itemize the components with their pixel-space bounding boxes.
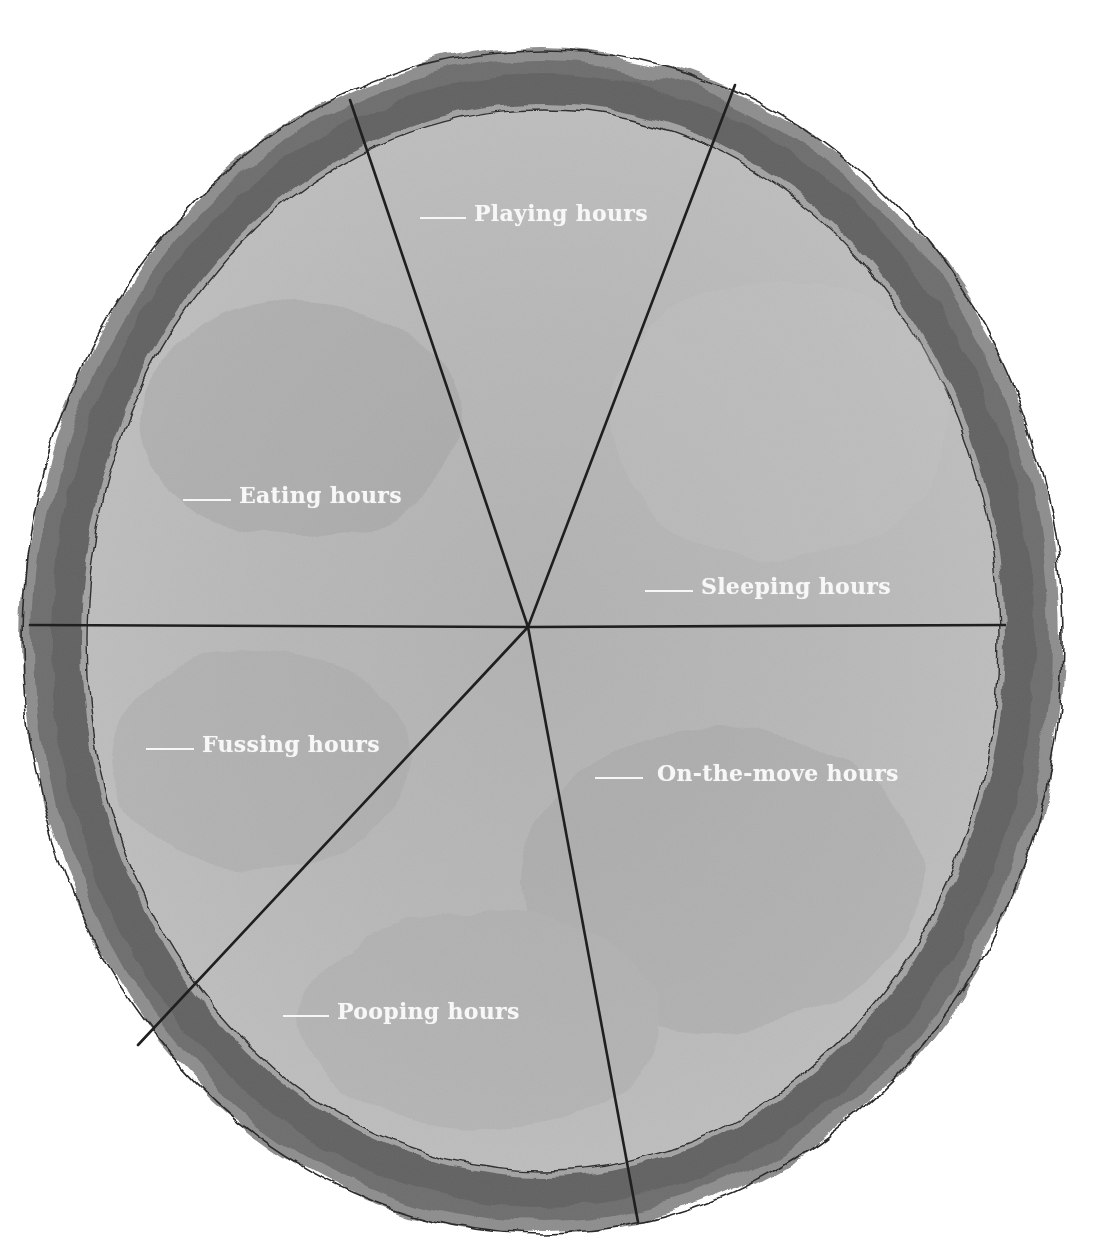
answer-blank-pooping[interactable] xyxy=(283,1015,329,1017)
label-eating-hours: Eating hours xyxy=(183,482,402,508)
label-playing-hours: Playing hours xyxy=(420,200,648,226)
label-text-playing: Playing hours xyxy=(474,200,648,226)
label-sleeping-hours: Sleeping hours xyxy=(645,573,891,599)
label-text-eating: Eating hours xyxy=(239,482,402,508)
label-text-on-the-move: On-the-move hours xyxy=(657,760,899,786)
answer-blank-playing[interactable] xyxy=(420,217,466,219)
answer-blank-on-the-move[interactable] xyxy=(595,777,643,779)
pie-chart-illustration xyxy=(0,0,1104,1257)
label-fussing-hours: Fussing hours xyxy=(146,731,380,757)
answer-blank-sleeping[interactable] xyxy=(645,590,693,592)
label-text-pooping: Pooping hours xyxy=(337,998,520,1024)
label-on-the-move-hours: On-the-move hours xyxy=(595,760,899,786)
label-text-sleeping: Sleeping hours xyxy=(701,573,891,599)
label-pooping-hours: Pooping hours xyxy=(283,998,520,1024)
answer-blank-eating[interactable] xyxy=(183,499,231,501)
label-text-fussing: Fussing hours xyxy=(202,731,380,757)
answer-blank-fussing[interactable] xyxy=(146,748,194,750)
